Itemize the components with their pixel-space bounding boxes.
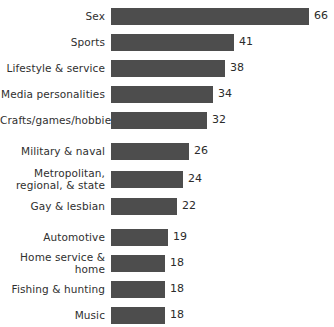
bar-value-label: 32	[212, 114, 226, 126]
category-label: Fishing & hunting	[0, 283, 111, 295]
bar-value-label: 26	[194, 145, 208, 157]
table-row: Media personalities 34	[0, 83, 334, 105]
bar-wrap: 66	[111, 5, 334, 27]
bar	[111, 229, 168, 246]
table-row: Music 18	[0, 304, 334, 326]
bar-wrap: 34	[111, 83, 334, 105]
bar	[111, 307, 165, 324]
category-label: Military & naval	[0, 145, 111, 157]
bar	[111, 34, 234, 51]
bar-wrap: 26	[111, 140, 334, 162]
category-label: Automotive	[0, 231, 111, 243]
bar	[111, 281, 165, 298]
bar-value-label: 41	[239, 36, 253, 48]
bar-value-label: 38	[230, 62, 244, 74]
table-row: Automotive 19	[0, 226, 334, 248]
bar-wrap: 32	[111, 109, 334, 131]
category-label: Media personalities	[0, 88, 111, 100]
table-row: Sex 66	[0, 5, 334, 27]
bar-wrap: 22	[111, 195, 334, 217]
bar-value-label: 18	[170, 309, 184, 321]
table-row: Sports 41	[0, 31, 334, 53]
bar-value-label: 34	[218, 88, 232, 100]
category-label: Crafts/games/hobbies	[0, 114, 111, 126]
category-label: Sex	[0, 10, 111, 22]
table-row: Metropolitan, regional, & state 24	[0, 167, 334, 191]
table-row: Gay & lesbian 22	[0, 195, 334, 217]
table-row: Lifestyle & service 38	[0, 57, 334, 79]
category-label: Home service & home	[0, 251, 111, 275]
bar	[111, 8, 309, 25]
bar-wrap: 18	[111, 278, 334, 300]
table-row: Home service & home 18	[0, 252, 334, 274]
bar	[111, 86, 213, 103]
table-row: Crafts/games/hobbies 32	[0, 109, 334, 131]
bar-value-label: 22	[182, 200, 196, 212]
category-label: Sports	[0, 36, 111, 48]
bar-value-label: 66	[314, 10, 328, 22]
bar-wrap: 18	[111, 304, 334, 326]
bar-wrap: 18	[111, 252, 334, 274]
bar-wrap: 41	[111, 31, 334, 53]
bar-value-label: 24	[188, 173, 202, 185]
category-label: Gay & lesbian	[0, 200, 111, 212]
bar	[111, 198, 177, 215]
bar	[111, 60, 225, 77]
category-label: Metropolitan, regional, & state	[0, 167, 111, 191]
bar	[111, 112, 207, 129]
bar-wrap: 38	[111, 57, 334, 79]
bar-wrap: 19	[111, 226, 334, 248]
horizontal-bar-chart: Sex 66 Sports 41 Lifestyle & service 38 …	[0, 0, 334, 327]
bar	[111, 255, 165, 272]
table-row: Fishing & hunting 18	[0, 278, 334, 300]
category-label: Lifestyle & service	[0, 62, 111, 74]
bar-value-label: 19	[173, 231, 187, 243]
bar-value-label: 18	[170, 257, 184, 269]
bar-value-label: 18	[170, 283, 184, 295]
bar-wrap: 24	[111, 167, 334, 191]
bar	[111, 143, 189, 160]
bar	[111, 171, 183, 188]
category-label: Music	[0, 309, 111, 321]
table-row: Military & naval 26	[0, 140, 334, 162]
